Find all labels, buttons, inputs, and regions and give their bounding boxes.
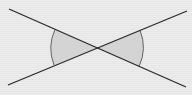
vertical-angles-diagram	[0, 0, 192, 95]
